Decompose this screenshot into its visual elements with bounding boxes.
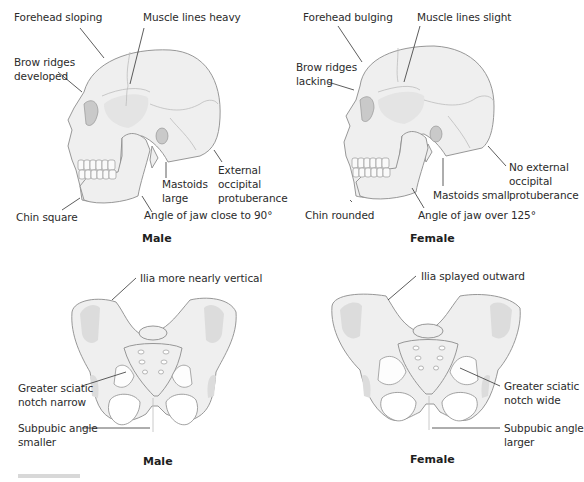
label-subpubic-line2: smaller	[18, 436, 56, 450]
label-jaw-angle: Angle of jaw close to 90°	[144, 209, 272, 223]
label-no-occipital-line1: No external	[509, 161, 569, 175]
label-brow-ridges-line2: lacking	[296, 75, 333, 89]
label-occipital-line2: occipital	[218, 178, 261, 192]
caption-male-pelvis: Male	[143, 455, 173, 468]
label-sciatic-line2: notch wide	[504, 394, 561, 408]
label-no-occipital-line3: protuberance	[509, 189, 579, 203]
label-no-occipital-line2: occipital	[509, 175, 552, 189]
caption-female-pelvis: Female	[410, 453, 455, 466]
label-forehead-bulging: Forehead bulging	[303, 11, 393, 25]
label-ilia-splayed: Ilia splayed outward	[421, 270, 525, 284]
label-jaw-angle: Angle of jaw over 125°	[418, 209, 536, 223]
caption-female-skull: Female	[410, 232, 455, 245]
label-ilia-vertical: Ilia more nearly vertical	[140, 272, 262, 286]
label-chin-square: Chin square	[16, 211, 78, 225]
female-pelvis-illustration	[332, 276, 520, 430]
label-subpubic-line2: larger	[504, 436, 534, 450]
label-sciatic-line1: Greater sciatic	[18, 382, 93, 396]
label-forehead-sloping: Forehead sloping	[14, 11, 102, 25]
label-subpubic-line1: Subpubic angle	[504, 422, 584, 436]
label-muscle-lines-heavy: Muscle lines heavy	[143, 11, 241, 25]
label-occipital-line3: protuberance	[218, 192, 288, 206]
figure-number-mark	[18, 474, 80, 478]
label-mastoids-line2: large	[162, 192, 188, 206]
label-mastoids-small: Mastoids small	[433, 189, 509, 203]
label-muscle-lines-slight: Muscle lines slight	[417, 11, 511, 25]
female-skull-illustration	[328, 26, 506, 208]
label-chin-rounded: Chin rounded	[305, 209, 374, 223]
label-sciatic-line2: notch narrow	[18, 396, 86, 410]
label-brow-ridges-line1: Brow ridges	[14, 56, 75, 70]
label-brow-ridges-line2: developed	[14, 70, 68, 84]
label-occipital-line1: External	[218, 164, 261, 178]
label-subpubic-line1: Subpubic angle	[18, 422, 98, 436]
caption-male-skull: Male	[142, 232, 172, 245]
label-mastoids-line1: Mastoids	[162, 178, 208, 192]
label-sciatic-line1: Greater sciatic	[504, 380, 579, 394]
label-brow-ridges-line1: Brow ridges	[296, 61, 357, 75]
male-pelvis-illustration	[72, 278, 236, 432]
